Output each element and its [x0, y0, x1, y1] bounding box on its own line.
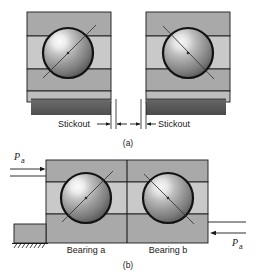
panel-b-caption: (b) [123, 260, 134, 270]
left-ball-center-mark [67, 52, 70, 55]
panel-b-assembly [46, 160, 208, 243]
force-right-symbol: P [231, 237, 238, 248]
bearing-b-label: Bearing b [149, 245, 188, 255]
bearing-a-label: Bearing a [67, 245, 106, 255]
right-ball-center-mark [187, 52, 190, 55]
panel-a-right-bearing [141, 12, 230, 129]
panel-a-caption: (a) [123, 138, 134, 148]
bearing-b-center-mark [167, 197, 170, 200]
stickout-label-left: Stickout [58, 119, 91, 129]
bearing-a-center-mark [85, 197, 88, 200]
force-right-subscript: a [239, 243, 243, 250]
force-left-subscript: a [21, 157, 25, 164]
technical-figure: Stickout Stickout (a) [0, 0, 256, 279]
stickout-label-right: Stickout [158, 119, 191, 129]
left-shaft-band [31, 99, 111, 115]
force-left-symbol: P [13, 151, 20, 162]
panel-a-left-bearing [27, 12, 116, 129]
figure-canvas: Stickout Stickout (a) [0, 0, 256, 279]
support-block [14, 224, 46, 243]
right-shaft-band [146, 99, 226, 115]
